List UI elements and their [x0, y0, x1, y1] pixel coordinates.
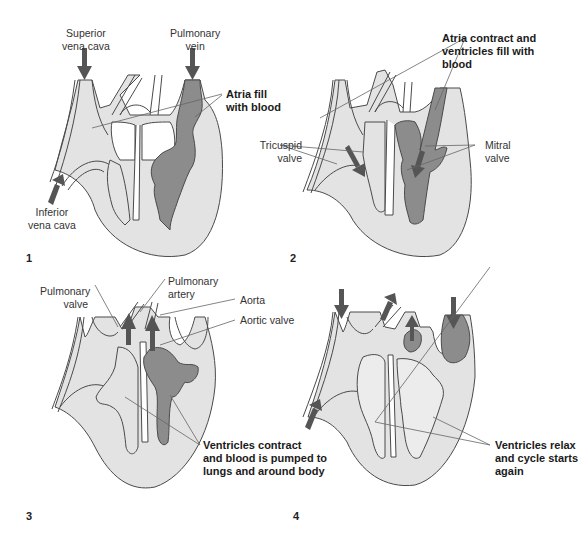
caption-line: with blood	[226, 101, 281, 114]
caption-line: ventricles fill with	[442, 45, 536, 58]
arrow-up-inferior-vena-cava-icon	[48, 174, 65, 205]
label-line: Superior	[62, 27, 110, 40]
label-line: vena cava	[62, 40, 110, 53]
label-pulmonary-valve: Pulmonary valve	[40, 285, 88, 310]
panel-3-ventricles-contract: Pulmonary valve Pulmonary artery Aorta A…	[0, 267, 275, 534]
arrow-up-pulmonary-artery-icon	[380, 293, 397, 321]
label-inferior-vena-cava: Inferior vena cava	[28, 206, 76, 231]
caption-line: Atria fill	[226, 88, 281, 101]
label-pulmonary-vein: Pulmonary vein	[170, 27, 220, 52]
caption-line: blood	[442, 58, 536, 71]
caption-line: Atria contract and	[442, 32, 536, 45]
heart-diagram-4	[275, 267, 550, 534]
panel-number: 1	[26, 252, 32, 264]
panel-number: 2	[290, 252, 296, 264]
panel-number: 4	[293, 510, 299, 522]
panel-2-atria-contract: Tricuspid valve Mitral valve Atria contr…	[275, 0, 550, 267]
label-superior-vena-cava: Superior vena cava	[62, 27, 110, 52]
caption-atria-contract: Atria contract and ventricles fill with …	[442, 32, 536, 71]
label-line: Pulmonary	[40, 285, 88, 298]
label-line: artery	[168, 288, 218, 301]
label-line: valve	[242, 152, 302, 165]
caption-line: Ventricles relax	[495, 439, 578, 452]
label-line: vena cava	[28, 219, 76, 232]
panel-1-atria-fill: Superior vena cava Pulmonary vein Inferi…	[0, 0, 275, 267]
label-line: Pulmonary	[170, 27, 220, 40]
caption-ventricles-relax: Ventricles relax and cycle starts again	[495, 439, 578, 478]
label-line: vein	[170, 40, 220, 53]
panel-number: 3	[26, 510, 32, 522]
caption-line: again	[495, 465, 578, 478]
label-line: Mitral	[485, 139, 511, 152]
label-line: valve	[40, 298, 88, 311]
caption-atria-fill: Atria fill with blood	[226, 88, 281, 114]
arrow-down-superior-vena-cava-icon	[77, 48, 92, 80]
panel-4-ventricles-relax: Ventricles relax and cycle starts again …	[275, 267, 550, 534]
label-mitral-valve: Mitral valve	[485, 139, 511, 164]
label-tricuspid-valve: Tricuspid valve	[242, 139, 302, 164]
label-pulmonary-artery: Pulmonary artery	[168, 275, 218, 300]
label-line: Inferior	[28, 206, 76, 219]
label-line: Pulmonary	[168, 275, 218, 288]
label-line: Tricuspid	[242, 139, 302, 152]
caption-line: and cycle starts	[495, 452, 578, 465]
label-aorta: Aorta	[240, 294, 265, 307]
arrow-down-pulmonary-vein-icon	[185, 48, 200, 80]
label-line: valve	[485, 152, 511, 165]
